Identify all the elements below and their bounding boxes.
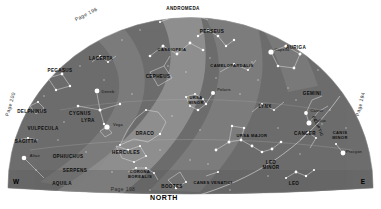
- star-chart: ANDROMEDAPERSEUSCASSIOPEIACEPHEUSLACERTA…: [0, 0, 381, 209]
- dome-shading: [0, 170, 381, 200]
- sky-dome: [0, 0, 381, 209]
